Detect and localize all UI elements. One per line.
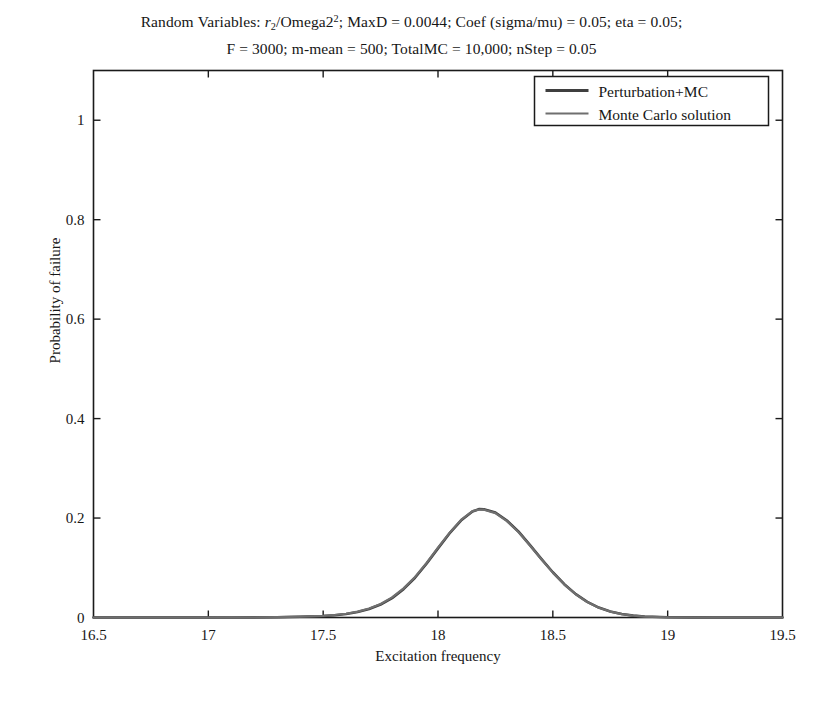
data-series-group (94, 509, 783, 617)
y-tick-label: 0.4 (66, 411, 85, 427)
x-tick-label: 19 (660, 627, 675, 643)
plot-area: 16.51717.51818.51919.5 00.20.40.60.81 Pe… (0, 0, 823, 704)
figure-canvas: Random Variables: r2/Omega22; MaxD = 0.0… (0, 0, 823, 704)
y-tick-label: 0.8 (66, 212, 85, 228)
x-tick-label: 17.5 (310, 627, 336, 643)
y-tick-label: 0.6 (66, 311, 85, 327)
x-tick-label: 17 (201, 627, 217, 643)
axes-frame (94, 71, 783, 618)
y-tick-label: 1 (77, 112, 85, 128)
x-tick-label: 18.5 (540, 627, 566, 643)
x-tick-label: 18 (431, 627, 446, 643)
legend-label: Perturbation+MC (599, 83, 708, 100)
legend-label: Monte Carlo solution (599, 106, 732, 123)
x-tick-label: 16.5 (80, 627, 106, 643)
y-tick-label: 0 (77, 610, 85, 626)
series-line (94, 509, 783, 617)
y-axis-ticks: 00.20.40.60.81 (66, 112, 783, 625)
series-line (94, 509, 783, 617)
x-axis-ticks: 16.51717.51818.51919.5 (80, 71, 795, 643)
chart-legend: Perturbation+MCMonte Carlo solution (535, 77, 769, 126)
y-tick-label: 0.2 (66, 510, 85, 526)
x-tick-label: 19.5 (769, 627, 795, 643)
